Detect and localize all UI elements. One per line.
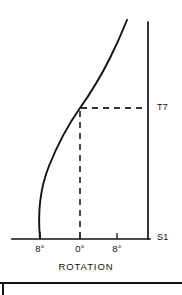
xtick-label-left: 8° <box>27 243 53 254</box>
xtick-label-right: 8° <box>104 243 130 254</box>
x-axis-title: ROTATION <box>0 261 172 272</box>
rotation-profile-figure: 8° 0° 8° T7 S1 ROTATION <box>0 0 182 295</box>
level-label-t7: T7 <box>157 102 168 112</box>
xtick-label-middle: 0° <box>67 243 93 254</box>
rotation-curve <box>39 20 127 238</box>
level-label-s1: S1 <box>157 232 168 242</box>
